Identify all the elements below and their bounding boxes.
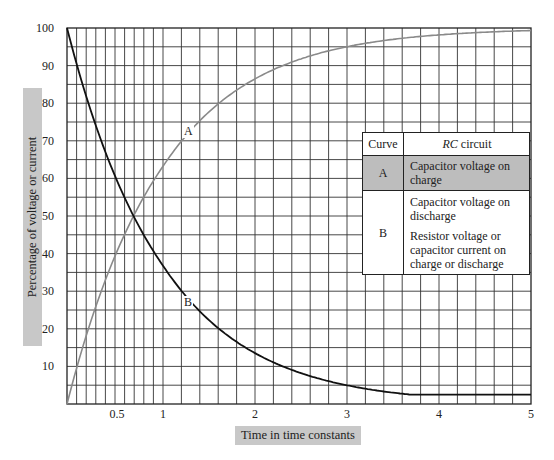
x-tick-label: 0.5 <box>110 407 125 422</box>
y-tick-label: 100 <box>10 21 54 36</box>
legend-row-a-curve: A <box>363 156 404 191</box>
legend-table: Curve RC circuit A Capacitor voltage on … <box>362 132 530 275</box>
legend-row-a: A Capacitor voltage on charge <box>363 156 530 191</box>
legend-row-b-description: Capacitor voltage on discharge Resistor … <box>404 191 530 275</box>
legend-header-curve: Curve <box>363 133 404 156</box>
legend-row-b-curve: B <box>363 191 404 275</box>
legend-row-b-text-2: Resistor voltage or capacitor current on… <box>410 229 524 271</box>
legend-header-rc: RC <box>443 137 458 151</box>
y-tick-label: 40 <box>10 246 54 261</box>
legend-row-a-description: Capacitor voltage on charge <box>404 156 530 191</box>
y-tick-label: 10 <box>10 359 54 374</box>
y-tick-label: 80 <box>10 96 54 111</box>
x-axis-label: Time in time constants <box>235 426 361 445</box>
y-tick-label: 60 <box>10 171 54 186</box>
legend-header-rc-circuit: RC circuit <box>404 133 530 156</box>
y-tick-label: 70 <box>10 133 54 148</box>
x-tick-label: 5 <box>528 407 534 422</box>
x-tick-label: 2 <box>252 407 258 422</box>
legend-row-b-text-1: Capacitor voltage on discharge <box>410 195 524 223</box>
y-tick-label: 50 <box>10 209 54 224</box>
legend-header-row: Curve RC circuit <box>363 133 530 156</box>
x-tick-label: 3 <box>344 407 350 422</box>
x-tick-label: 4 <box>436 407 442 422</box>
curve-label-b: B <box>183 296 193 309</box>
y-tick-label: 20 <box>10 321 54 336</box>
legend-header-circuit: circuit <box>458 137 492 151</box>
x-tick-label: 1 <box>160 407 166 422</box>
y-tick-label: 30 <box>10 284 54 299</box>
y-tick-label: 90 <box>10 58 54 73</box>
legend-row-b: B Capacitor voltage on discharge Resisto… <box>363 191 530 275</box>
curve-label-a: A <box>183 125 194 138</box>
